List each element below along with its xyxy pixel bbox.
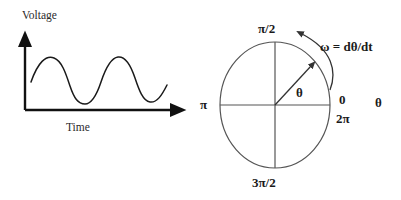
figure-canvas: Voltage Time π/2 π 0 2π xyxy=(0,0,401,200)
label-pi: π xyxy=(200,98,207,111)
label-two-pi: 2π xyxy=(336,112,350,125)
radius-vector-arrow xyxy=(275,66,311,105)
label-three-pi-over-2: 3π/2 xyxy=(252,176,276,189)
label-theta-axis: θ xyxy=(375,96,382,109)
label-zero: 0 xyxy=(339,93,346,106)
label-angular-velocity-equation: ω = dθ/dt xyxy=(320,40,373,53)
label-theta-angle: θ xyxy=(296,86,303,99)
label-pi-over-2: π/2 xyxy=(258,22,275,35)
